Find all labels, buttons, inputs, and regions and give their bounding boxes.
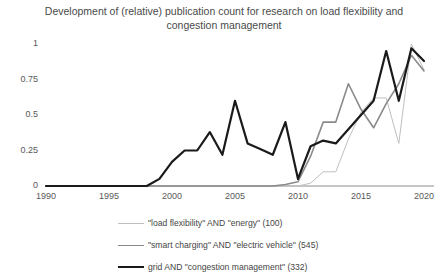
series-line-1: [46, 44, 424, 186]
legend-line-icon: [118, 266, 144, 268]
chart-container: Development of (relative) publication co…: [0, 0, 448, 278]
y-axis-tick-label: 0.5: [4, 109, 38, 119]
series-line-2: [46, 55, 424, 186]
y-axis-tick-label: 1: [4, 38, 38, 48]
y-axis-tick-label: 0: [4, 180, 38, 190]
x-axis-tick-label: 2020: [404, 191, 444, 201]
y-axis-tick-label: 0.25: [4, 145, 38, 155]
legend-line-icon: [118, 223, 144, 224]
legend-item: grid AND "congestion management" (332): [118, 256, 438, 278]
chart-legend: "load flexibility" AND "energy" (100) "s…: [118, 212, 438, 278]
x-axis-tick-label: 2005: [215, 191, 255, 201]
legend-line-icon: [118, 245, 144, 246]
legend-item-label: grid AND "congestion management" (332): [148, 262, 307, 272]
legend-item-label: "smart charging" AND "electric vehicle" …: [148, 240, 318, 250]
x-axis-tick-label: 2015: [341, 191, 381, 201]
legend-item-label: "load flexibility" AND "energy" (100): [148, 218, 282, 228]
x-axis-tick-label: 2000: [152, 191, 192, 201]
y-axis-tick-label: 0.75: [4, 74, 38, 84]
x-axis-tick-label: 2010: [278, 191, 318, 201]
legend-item: "load flexibility" AND "energy" (100): [118, 212, 438, 234]
x-axis-tick-label: 1990: [26, 191, 66, 201]
legend-item: "smart charging" AND "electric vehicle" …: [118, 234, 438, 256]
series-line-3: [46, 48, 424, 186]
x-axis-tick-label: 1995: [89, 191, 129, 201]
